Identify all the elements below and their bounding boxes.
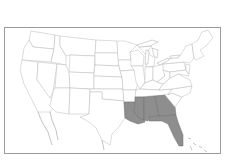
state-colorado	[69, 72, 94, 89]
state-arkansas	[123, 90, 136, 102]
state-montana	[60, 36, 96, 56]
caribbean-islands	[188, 138, 207, 152]
state-north-dakota	[95, 40, 118, 53]
state-kansas	[94, 76, 123, 89]
state-wyoming	[69, 55, 95, 73]
state-washington	[29, 31, 55, 49]
state-south-dakota	[95, 53, 119, 66]
state-new-mexico	[69, 88, 90, 114]
state-wisconsin	[130, 50, 144, 66]
lake-michigan	[145, 50, 149, 64]
us-map	[0, 0, 235, 164]
state-nebraska	[94, 65, 122, 77]
lake-superior	[137, 40, 158, 47]
state-florida	[149, 115, 183, 146]
state-new-england	[192, 30, 213, 60]
state-arizona	[50, 88, 70, 114]
state-utah	[55, 64, 70, 88]
lake-ontario	[170, 55, 180, 58]
